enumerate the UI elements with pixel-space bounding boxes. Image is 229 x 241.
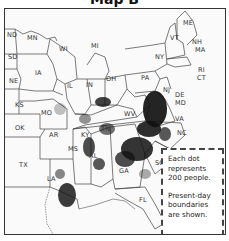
state-label-me: ME	[183, 19, 193, 27]
state-label-wv: WV	[124, 110, 135, 118]
map-legend: Each dot represents 200 people. Present-…	[161, 148, 224, 235]
state-label-ia: IA	[35, 69, 42, 77]
state-label-ok: OK	[15, 124, 25, 132]
state-label-va: VA	[175, 115, 184, 123]
state-label-mi: MI	[91, 42, 99, 50]
state-label-ms: MS	[68, 145, 78, 153]
state-label-sd: SD	[8, 53, 18, 61]
state-label-tx: TX	[19, 161, 28, 169]
state-label-il: IL	[67, 82, 73, 90]
state-label-md: MD	[175, 99, 186, 107]
state-label-ar: AR	[49, 131, 58, 139]
state-label-nh: NH	[192, 38, 202, 46]
state-label-ky: KY	[81, 131, 89, 139]
state-label-nc: NC	[177, 129, 187, 137]
state-label-nj: NJ	[163, 86, 170, 94]
state-label-ga: GA	[119, 167, 129, 175]
state-label-ma: MA	[195, 46, 205, 54]
state-label-la: LA	[47, 175, 56, 183]
map-title: Map B	[0, 0, 229, 7]
state-label-in: IN	[86, 81, 93, 89]
state-label-mn: MN	[27, 34, 38, 42]
state-label-nd: ND	[7, 31, 17, 39]
state-label-ct: CT	[197, 74, 206, 82]
state-label-de: DE	[175, 91, 185, 99]
legend-boundary-note: Present-day boundaries are shown.	[168, 191, 217, 220]
state-label-fl: FL	[139, 196, 147, 204]
state-label-ny: NY	[155, 53, 164, 61]
map-frame: ND MN SD WI MI IA NE IL IN OH KS MO OK A…	[4, 8, 226, 235]
state-label-ne: NE	[9, 77, 18, 85]
state-label-wi: WI	[59, 45, 68, 53]
state-label-al: AL	[89, 152, 97, 160]
state-label-ri: RI	[198, 66, 205, 74]
state-label-oh: OH	[106, 75, 116, 83]
state-label-tn: TN	[101, 125, 110, 133]
state-label-mo: MO	[41, 109, 52, 117]
state-label-vt: VT	[170, 34, 179, 42]
state-label-pa: PA	[141, 74, 149, 82]
legend-dot-scale: Each dot represents 200 people.	[168, 154, 217, 183]
state-label-ks: KS	[15, 101, 24, 109]
